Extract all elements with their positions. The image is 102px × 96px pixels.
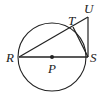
center-point-p (50, 55, 54, 59)
label-t: T (68, 14, 75, 27)
segment-ts (73, 27, 88, 57)
label-p: P (48, 62, 56, 75)
label-r: R (6, 51, 14, 64)
label-s: S (90, 51, 97, 64)
label-u: U (84, 2, 93, 15)
